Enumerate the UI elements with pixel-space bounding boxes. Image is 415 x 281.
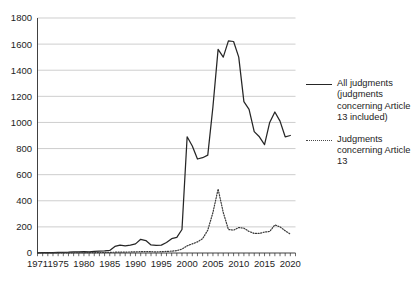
y-tick-label: 0 bbox=[27, 247, 32, 258]
y-tick-label: 1400 bbox=[11, 65, 32, 76]
series-all-judgments-line bbox=[38, 41, 291, 253]
y-tick-label: 200 bbox=[16, 221, 32, 232]
y-tick-label: 1800 bbox=[11, 12, 32, 23]
legend-label-article-13: Judgments concerning Article 13 bbox=[337, 134, 414, 168]
legend-item-article-13: Judgments concerning Article 13 bbox=[306, 134, 414, 168]
x-tick-label: 1971 bbox=[27, 258, 48, 269]
x-tick-label: 1985 bbox=[99, 258, 120, 269]
x-tick-label: 2000 bbox=[177, 258, 198, 269]
y-tick-label: 800 bbox=[16, 143, 32, 154]
legend-solid-line-icon bbox=[306, 78, 332, 91]
y-tick-label: 1600 bbox=[11, 39, 32, 50]
x-axis-minor-ticks bbox=[38, 253, 296, 256]
legend-dotted-line-icon bbox=[306, 134, 332, 147]
y-tick-label: 1000 bbox=[11, 117, 32, 128]
y-axis-tick-labels: 020040060080010001200140016001800 bbox=[11, 12, 32, 258]
x-tick-label: 1980 bbox=[73, 258, 94, 269]
legend-label-all-judgments: All judgments (judgments concerning Arti… bbox=[337, 78, 414, 124]
x-tick-label: 2005 bbox=[202, 258, 223, 269]
gridlines bbox=[38, 18, 296, 227]
chart-legend: All judgments (judgments concerning Arti… bbox=[306, 78, 414, 178]
y-tick-label: 400 bbox=[16, 195, 32, 206]
legend-item-all-judgments: All judgments (judgments concerning Arti… bbox=[306, 78, 414, 124]
y-tick-label: 600 bbox=[16, 169, 32, 180]
x-tick-label: 2010 bbox=[228, 258, 249, 269]
x-tick-label: 1990 bbox=[125, 258, 146, 269]
x-tick-label: 1975 bbox=[48, 258, 69, 269]
x-tick-label: 1995 bbox=[151, 258, 172, 269]
y-tick-label: 1200 bbox=[11, 91, 32, 102]
x-tick-label: 2020 bbox=[280, 258, 301, 269]
x-tick-label: 2015 bbox=[254, 258, 275, 269]
chart-container: 020040060080010001200140016001800 197119… bbox=[0, 0, 415, 281]
x-axis-tick-labels: 1971197519801985199019952000200520102015… bbox=[27, 258, 301, 269]
